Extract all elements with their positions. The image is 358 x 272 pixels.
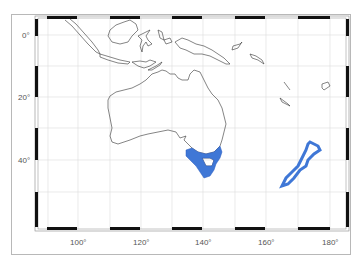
y-label-0: 0° <box>22 31 30 40</box>
map-canvas <box>0 0 358 272</box>
y-label-20: 20° <box>18 93 30 102</box>
x-label-100: 100° <box>70 238 87 247</box>
x-label-160: 160° <box>258 238 275 247</box>
y-label-40: 40° <box>18 156 30 165</box>
x-label-180: 180° <box>322 238 339 247</box>
x-label-120: 120° <box>133 238 150 247</box>
x-label-140: 140° <box>195 238 212 247</box>
map-area <box>38 18 346 229</box>
